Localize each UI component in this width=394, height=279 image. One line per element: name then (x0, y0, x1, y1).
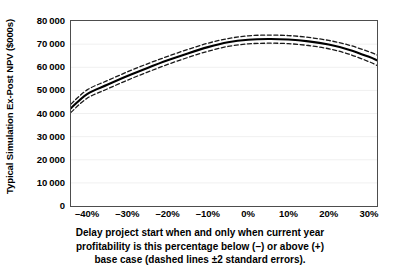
y-tick-label: 20 000 (37, 153, 65, 164)
y-axis-title: Typical Simulation Ex-Post NPV ($000s) (0, 0, 18, 212)
y-tick-label: 10 000 (37, 176, 65, 187)
caption-line: Delay project start when and only when c… (30, 226, 370, 240)
y-tick-label: 30 000 (37, 130, 65, 141)
y-axis-title-text: Typical Simulation Ex-Post NPV ($000s) (4, 19, 15, 194)
x-tick-label: –10% (196, 208, 220, 219)
y-tick-label: 50 000 (37, 84, 65, 95)
plot-svg (71, 21, 377, 206)
x-tick-label: 30% (359, 208, 378, 219)
chart-figure: Typical Simulation Ex-Post NPV ($000s) 0… (0, 0, 394, 279)
y-axis-tick-labels: 010 00020 00030 00040 00050 00060 00070 … (18, 0, 68, 212)
x-tick-label: –40% (75, 208, 99, 219)
x-tick-label: –20% (155, 208, 179, 219)
caption-line: base case (dashed lines ±2 standard erro… (30, 253, 370, 267)
plot-area (70, 20, 378, 207)
x-tick-label: –30% (115, 208, 139, 219)
x-tick-label: 10% (279, 208, 298, 219)
x-axis-tick-labels: –40%–30%–20%–10%0%10%20%30% (70, 208, 378, 224)
y-tick-label: 70 000 (37, 38, 65, 49)
y-tick-label: 60 000 (37, 61, 65, 72)
x-tick-label: 20% (319, 208, 338, 219)
x-axis-caption: Delay project start when and only when c… (30, 226, 370, 267)
y-tick-label: 0 (60, 200, 65, 211)
data-series-line (71, 39, 377, 108)
caption-line: profitability is this percentage below (… (30, 240, 370, 254)
x-tick-label: 0% (241, 208, 255, 219)
y-tick-label: 80 000 (37, 15, 65, 26)
data-series-line (71, 43, 377, 112)
gridlines (71, 44, 377, 183)
y-tick-label: 40 000 (37, 107, 65, 118)
series-layer (71, 35, 377, 112)
